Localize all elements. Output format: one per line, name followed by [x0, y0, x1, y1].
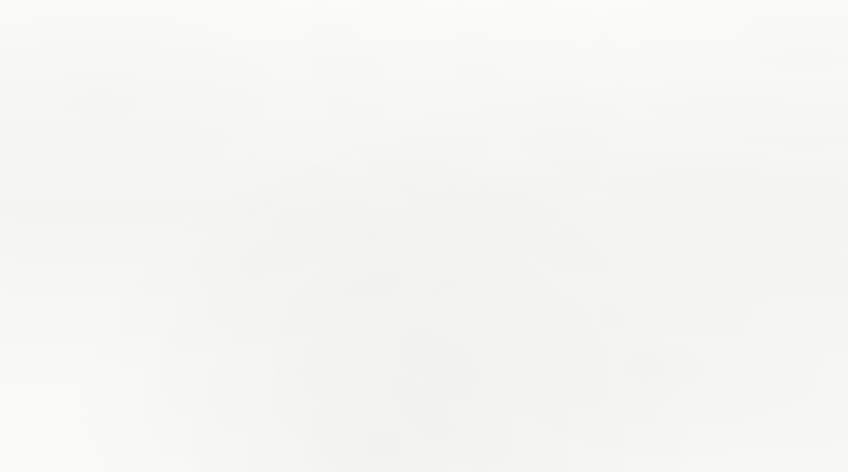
y-axis-tick-label: -2% [790, 384, 848, 396]
y-axis-tick-label: 2% [790, 210, 848, 222]
y-axis-tick-label: -1% [790, 341, 848, 353]
y-axis-tick-label: 3% [790, 166, 848, 178]
y-axis [0, 41, 64, 434]
y-axis-tick-label: 0% [790, 297, 848, 309]
bar-label: UK [329, 64, 345, 76]
bar-label: Italy [758, 287, 781, 299]
y-axis-tick-label: 6% [790, 35, 848, 47]
y-axis-tick-label: -3% [790, 428, 848, 440]
bar [206, 78, 253, 303]
bar [98, 58, 145, 303]
bar-label: Canada [425, 75, 465, 87]
y-axis-tick-label: 5% [790, 79, 848, 91]
gridline [68, 303, 836, 304]
y-axis-tick-label: 1% [790, 253, 848, 265]
bar [746, 303, 793, 403]
bar-chart: GermanyUSUKCanadaJapanFranceItaly 6%5%4%… [0, 0, 848, 472]
bar [422, 91, 469, 303]
gridline [68, 434, 836, 435]
bar-label: US [221, 62, 236, 74]
plot-area: GermanyUSUKCanadaJapanFranceItaly [68, 41, 836, 434]
bar [314, 80, 361, 303]
bar-label: Japan [537, 250, 569, 262]
gridline [68, 41, 836, 42]
gridline [68, 347, 836, 348]
bar [530, 266, 577, 303]
bar-label: Germany [97, 42, 145, 54]
gridline [68, 390, 836, 391]
y-axis-tick-label: 4% [790, 122, 848, 134]
bar-label: France [643, 272, 680, 284]
bar [638, 288, 685, 303]
